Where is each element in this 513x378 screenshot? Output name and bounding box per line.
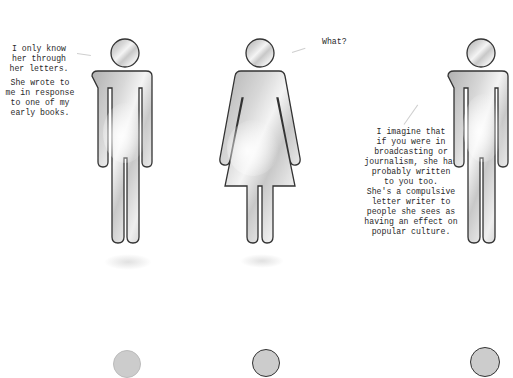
- left-speech-text-1: I only know her through her letters.: [4, 44, 74, 74]
- left-speech-text-2: She wrote to me in response to one of my…: [0, 78, 80, 118]
- left-man-figure: [87, 38, 163, 248]
- center-figure-shadow: [240, 254, 284, 268]
- left-figure-shadow: [104, 254, 152, 270]
- center-woman-figure: [215, 38, 305, 248]
- center-speech-text: What?: [322, 37, 347, 47]
- right-man-figure: [443, 38, 513, 248]
- bottom-right-head: [470, 347, 500, 377]
- bottom-left-head: [113, 350, 141, 378]
- bottom-center-head: [252, 349, 280, 377]
- right-pointer-line: [404, 105, 419, 125]
